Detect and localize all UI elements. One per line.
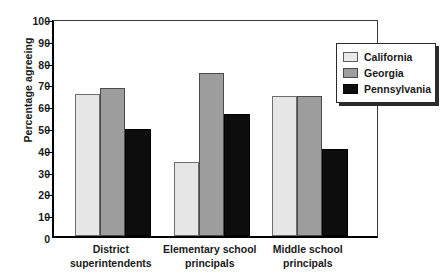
bar-california-group3 xyxy=(272,96,297,236)
legend-label-pennsylvania: Pennsylvania xyxy=(364,83,431,95)
bar-georgia-group2 xyxy=(199,73,224,237)
y-axis-tick-label: 20 xyxy=(4,187,50,203)
bar-georgia-group1 xyxy=(100,88,125,236)
y-axis-tick-label: 90 xyxy=(4,35,50,51)
bar-pennsylvania-group3 xyxy=(322,149,347,236)
y-axis-tick-label: 50 xyxy=(4,122,50,138)
y-axis-tick-label: 30 xyxy=(4,166,50,182)
y-axis-tick-label: 0 xyxy=(4,231,50,247)
y-axis-tick-label: 40 xyxy=(4,144,50,160)
bar-pennsylvania-group2 xyxy=(224,114,249,236)
y-axis-tick-label: 80 xyxy=(4,57,50,73)
legend-label-georgia: Georgia xyxy=(364,67,404,79)
legend-swatch-california xyxy=(343,52,358,62)
x-axis-label-line: principals xyxy=(248,256,368,270)
bar-pennsylvania-group1 xyxy=(125,129,150,236)
legend-item: Georgia xyxy=(343,65,430,81)
y-axis-tick-label: 100 xyxy=(4,13,50,29)
legend-item: California xyxy=(343,49,430,65)
legend: California Georgia Pennsylvania xyxy=(336,43,436,103)
x-axis-label-group3: Middle schoolprincipals xyxy=(248,242,368,270)
bar-california-group1 xyxy=(75,94,100,236)
bar-chart: Percentage agreeing 01020304050607080901… xyxy=(0,0,442,278)
x-axis-label-line: Middle school xyxy=(248,242,368,256)
y-axis-tick-label: 10 xyxy=(4,209,50,225)
legend-swatch-georgia xyxy=(343,68,358,78)
plot-area: 0102030405060708090100 xyxy=(52,20,378,238)
legend-label-california: California xyxy=(364,51,412,63)
bar-georgia-group3 xyxy=(297,96,322,236)
y-axis-tick-label: 60 xyxy=(4,100,50,116)
legend-item: Pennsylvania xyxy=(343,81,430,97)
bar-california-group2 xyxy=(174,162,199,236)
y-axis-tick-label: 70 xyxy=(4,78,50,94)
legend-swatch-pennsylvania xyxy=(343,84,358,94)
